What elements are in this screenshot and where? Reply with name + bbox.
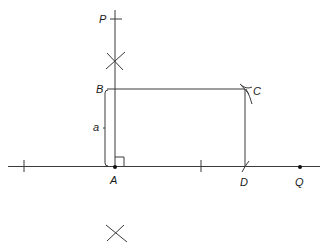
point-q-dot <box>298 165 302 169</box>
label-d: D <box>240 176 248 188</box>
label-a-point: A <box>109 174 117 186</box>
geometric-construction-diagram: P B C a A D Q <box>0 0 328 249</box>
label-q: Q <box>295 176 304 188</box>
right-angle-marker <box>115 157 124 167</box>
point-a-dot <box>113 165 117 169</box>
side-length-bracket <box>105 90 108 166</box>
arc-at-c-icon <box>240 84 252 104</box>
label-c: C <box>253 85 261 97</box>
lower-construction-cross-icon <box>106 225 127 242</box>
label-a-length: a <box>93 121 99 133</box>
label-p: P <box>99 13 107 25</box>
label-b: B <box>96 83 103 95</box>
